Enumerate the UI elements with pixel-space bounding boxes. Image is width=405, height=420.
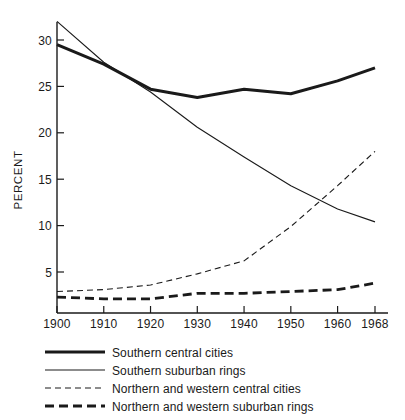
legend-label: Southern central cities xyxy=(112,346,233,360)
series-line xyxy=(57,151,375,291)
x-tick-label: 1930 xyxy=(184,317,212,331)
line-chart: PERCENT 51015202530 19001910192019301940… xyxy=(0,0,405,420)
x-tick-label: 1920 xyxy=(137,317,165,331)
series-line xyxy=(57,283,375,299)
x-tick-label: 1960 xyxy=(324,317,352,331)
y-tick-label: 20 xyxy=(38,126,52,140)
y-tick-label: 30 xyxy=(38,34,52,48)
chart-figure: PERCENT 51015202530 19001910192019301940… xyxy=(0,0,405,420)
series-line xyxy=(57,45,375,98)
y-axis-ticks: 51015202530 xyxy=(38,34,64,280)
legend-label: Northern and western suburban rings xyxy=(112,400,314,414)
x-tick-label: 1968 xyxy=(361,317,389,331)
y-tick-label: 5 xyxy=(45,266,52,280)
x-tick-label: 1940 xyxy=(230,317,258,331)
y-tick-label: 25 xyxy=(38,80,52,94)
y-tick-label: 15 xyxy=(38,173,52,187)
y-axis-title: PERCENT xyxy=(12,150,24,209)
x-tick-label: 1900 xyxy=(43,317,71,331)
legend-label: Southern suburban rings xyxy=(112,364,246,378)
series-line xyxy=(57,21,375,221)
chart-legend: Southern central citiesSouthern suburban… xyxy=(45,346,314,414)
x-tick-label: 1910 xyxy=(90,317,118,331)
data-series-layer xyxy=(57,21,375,298)
x-tick-label: 1950 xyxy=(277,317,305,331)
legend-label: Northern and western central cities xyxy=(112,382,301,396)
x-axis-ticks: 19001910192019301940195019601968 xyxy=(43,306,389,331)
y-tick-label: 10 xyxy=(38,219,52,233)
